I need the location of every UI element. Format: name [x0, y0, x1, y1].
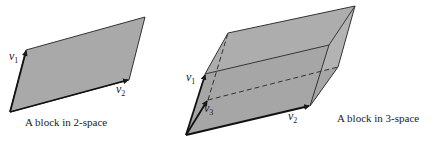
vector-label-v1-3d: v1 [186, 70, 195, 86]
vector-label-v2-3d: v2 [288, 109, 297, 125]
caption-3d: A block in 3-space [337, 112, 419, 124]
caption-2d: A block in 2-space [25, 116, 107, 128]
vector-label-v3: v3 [204, 101, 213, 117]
vector-label-v2: v2 [116, 82, 125, 98]
vector-label-v1: v1 [9, 49, 18, 65]
